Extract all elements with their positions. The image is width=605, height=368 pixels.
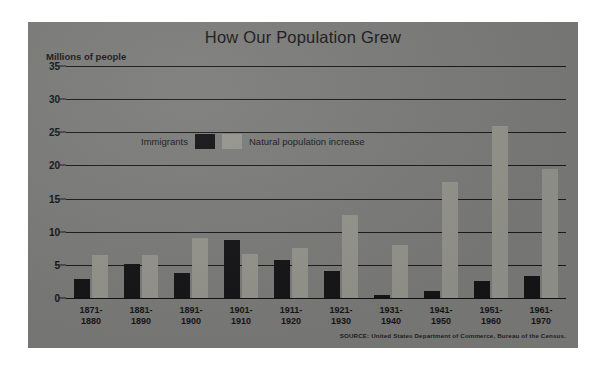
- bar-groups: 1871-18801881-18901891-19001901-19101911…: [66, 66, 566, 298]
- bar-group: 1871-1880: [66, 66, 116, 298]
- x-tick-label: 1901-1910: [229, 305, 252, 326]
- chart-panel: How Our Population Grew Millions of peop…: [28, 22, 578, 348]
- x-tick-label: 1951-1960: [479, 305, 502, 326]
- y-tick-label-25: 25: [49, 127, 60, 138]
- bar-group: 1941-1950: [416, 66, 466, 298]
- bar: [324, 271, 340, 298]
- y-tick-mark-25: [59, 132, 66, 133]
- bar: [392, 245, 408, 298]
- y-tick-label-5: 5: [54, 259, 60, 270]
- bar-group: 1901-1910: [216, 66, 266, 298]
- bar: [124, 264, 140, 298]
- x-tick-label: 1931-1940: [379, 305, 402, 326]
- bar-group: 1951-1960: [466, 66, 516, 298]
- bar-group: 1931-1940: [366, 66, 416, 298]
- x-tick-label: 1881-1890: [129, 305, 152, 326]
- y-tick-label-35: 35: [49, 61, 60, 72]
- bar: [92, 255, 108, 298]
- x-tick-label: 1891-1900: [179, 305, 202, 326]
- gridline-0: [66, 298, 566, 299]
- bar-group: 1921-1930: [316, 66, 366, 298]
- source-note: SOURCE: United States Department of Comm…: [340, 332, 566, 339]
- bar-group: 1911-1920: [266, 66, 316, 298]
- bar: [292, 248, 308, 298]
- bar: [542, 169, 558, 298]
- bar-group: 1961-1970: [516, 66, 566, 298]
- bar: [174, 273, 190, 298]
- y-tick-mark-15: [59, 198, 66, 199]
- bar: [242, 254, 258, 298]
- bar: [492, 126, 508, 298]
- bar: [524, 276, 540, 298]
- y-tick-label-0: 0: [54, 293, 60, 304]
- y-tick-label-30: 30: [49, 94, 60, 105]
- bar: [424, 291, 440, 298]
- y-tick-label-15: 15: [49, 193, 60, 204]
- chart-title: How Our Population Grew: [28, 28, 578, 47]
- y-tick-mark-10: [59, 231, 66, 232]
- bar: [342, 215, 358, 298]
- bar: [474, 281, 490, 298]
- bar: [442, 182, 458, 298]
- x-tick-label: 1871-1880: [79, 305, 102, 326]
- bar: [142, 255, 158, 298]
- bar-group: 1891-1900: [166, 66, 216, 298]
- bar: [74, 279, 90, 298]
- bar: [274, 260, 290, 298]
- x-tick-label: 1961-1970: [529, 305, 552, 326]
- y-tick-label-20: 20: [49, 160, 60, 171]
- x-tick-label: 1911-1920: [280, 305, 303, 326]
- y-tick-mark-20: [59, 165, 66, 166]
- bar: [224, 240, 240, 298]
- x-tick-label: 1921-1930: [329, 305, 352, 326]
- y-tick-mark-35: [59, 66, 66, 67]
- plot-area: 05101520253035 1871-18801881-18901891-19…: [66, 66, 566, 298]
- x-tick-label: 1941-1950: [429, 305, 452, 326]
- bar: [374, 295, 390, 298]
- y-tick-mark-30: [59, 99, 66, 100]
- bar: [192, 238, 208, 298]
- bar-group: 1881-1890: [116, 66, 166, 298]
- y-tick-label-10: 10: [49, 226, 60, 237]
